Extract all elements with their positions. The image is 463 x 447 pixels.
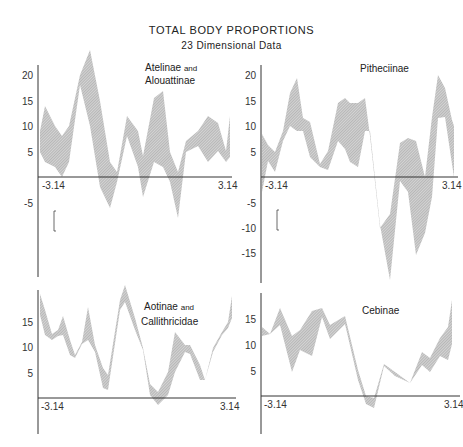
panel-label-line2: Callithricidae bbox=[141, 316, 199, 327]
y-tick-5: 5 bbox=[250, 366, 256, 377]
y-tick-neg15: -15 bbox=[242, 248, 257, 259]
x-tick-max: 3.14 bbox=[444, 399, 463, 410]
y-tick-10: 10 bbox=[22, 121, 34, 132]
y-tick-neg5: -5 bbox=[24, 198, 33, 209]
y-tick-15: 15 bbox=[22, 317, 34, 328]
x-tick-max: 3.14 bbox=[218, 180, 238, 191]
y-tick-5: 5 bbox=[250, 147, 256, 158]
panel-label: Cebinae bbox=[362, 305, 400, 316]
y-tick-20: 20 bbox=[22, 70, 34, 81]
band-cebinae bbox=[262, 300, 452, 408]
error-bracket bbox=[54, 211, 56, 231]
y-tick-15: 15 bbox=[22, 96, 34, 107]
error-bracket bbox=[277, 210, 279, 230]
panel-aotinae: 15 10 5 -3.14 3.14 Aotinae and Callithri… bbox=[22, 285, 240, 434]
figure-canvas: 20 15 10 5 -5 -3.14 3.14 Atelinae and Al… bbox=[0, 0, 463, 447]
panel-atelinae: 20 15 10 5 -5 -3.14 3.14 Atelinae and Al… bbox=[22, 50, 238, 277]
x-tick-min: -3.14 bbox=[41, 401, 64, 412]
y-tick-10: 10 bbox=[245, 340, 257, 351]
panel-label: Pitheciinae bbox=[360, 63, 409, 74]
y-tick-neg10: -10 bbox=[242, 223, 257, 234]
band-atelinae bbox=[40, 50, 230, 218]
panel-label-line1: Aotinae and bbox=[144, 301, 194, 312]
x-tick-min: -3.14 bbox=[264, 399, 287, 410]
x-tick-max: 3.14 bbox=[442, 180, 462, 191]
y-tick-15: 15 bbox=[245, 96, 257, 107]
x-tick-min: -3.14 bbox=[42, 180, 65, 191]
y-tick-neg5: -5 bbox=[247, 198, 256, 209]
panel-pitheciinae: 20 15 10 5 -5 -10 -15 -3.14 3.14 Pitheci… bbox=[242, 63, 462, 283]
y-tick-5: 5 bbox=[27, 147, 33, 158]
y-tick-10: 10 bbox=[22, 342, 34, 353]
panel-cebinae: 15 10 5 -3.14 3.14 Cebinae bbox=[245, 293, 463, 434]
y-tick-5: 5 bbox=[27, 368, 33, 379]
x-tick-min: -3.14 bbox=[265, 180, 288, 191]
y-tick-20: 20 bbox=[245, 70, 257, 81]
x-tick-max: 3.14 bbox=[220, 401, 240, 412]
panel-label-line1: Atelinae and bbox=[145, 62, 197, 73]
y-tick-10: 10 bbox=[245, 121, 257, 132]
panel-label-line2: Alouattinae bbox=[145, 75, 195, 86]
y-tick-15: 15 bbox=[245, 314, 257, 325]
band-aotinae bbox=[40, 285, 232, 405]
